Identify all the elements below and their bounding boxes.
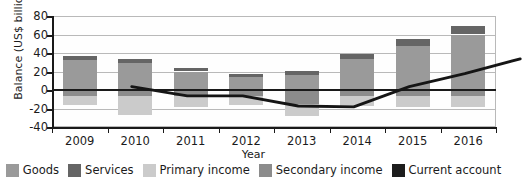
legend-label: Current account bbox=[409, 163, 502, 177]
y-axis-tick-labels: -40-20020406080 bbox=[18, 0, 48, 140]
x-tick-label: 2011 bbox=[176, 134, 205, 148]
legend-label: Goods bbox=[23, 163, 59, 177]
y-tick-label: -40 bbox=[29, 120, 48, 134]
y-axis-line bbox=[52, 16, 54, 128]
x-tick-mark bbox=[52, 128, 53, 133]
legend-label: Primary income bbox=[160, 163, 250, 177]
x-tick-mark bbox=[163, 128, 164, 133]
legend-item[interactable]: Goods bbox=[6, 163, 59, 177]
line-current-account bbox=[132, 59, 521, 107]
y-tick-mark bbox=[47, 109, 52, 111]
x-tick-label: 2015 bbox=[398, 134, 427, 148]
x-axis-title: Year bbox=[0, 148, 507, 161]
x-tick-label: 2009 bbox=[65, 134, 94, 148]
y-tick-mark bbox=[47, 72, 52, 74]
x-tick-label: 2010 bbox=[121, 134, 150, 148]
bar-group[interactable] bbox=[63, 16, 97, 127]
x-tick-mark bbox=[496, 128, 497, 133]
legend-item[interactable]: Primary income bbox=[143, 163, 250, 177]
bar-segment-services[interactable] bbox=[63, 56, 97, 61]
bar-segment-goods[interactable] bbox=[63, 60, 97, 90]
legend-label: Secondary income bbox=[276, 163, 383, 177]
legend-swatch-icon bbox=[143, 164, 156, 177]
x-tick-mark bbox=[385, 128, 386, 133]
y-tick-label: 80 bbox=[33, 9, 48, 23]
x-tick-mark bbox=[274, 128, 275, 133]
x-tick-mark bbox=[219, 128, 220, 133]
legend-swatch-icon bbox=[68, 164, 81, 177]
x-tick-label: 2013 bbox=[287, 134, 316, 148]
x-tick-mark bbox=[330, 128, 331, 133]
legend-swatch-icon bbox=[259, 164, 272, 177]
legend-swatch-icon bbox=[6, 164, 19, 177]
legend-item[interactable]: Current account bbox=[392, 163, 502, 177]
legend-label: Services bbox=[85, 163, 134, 177]
x-tick-mark bbox=[108, 128, 109, 133]
bar-segment-primary-income[interactable] bbox=[63, 96, 97, 104]
legend-swatch-icon bbox=[392, 164, 405, 177]
y-tick-label: 60 bbox=[33, 28, 48, 42]
y-tick-label: -20 bbox=[29, 102, 48, 116]
y-tick-mark bbox=[47, 35, 52, 37]
x-tick-mark bbox=[441, 128, 442, 133]
legend-item[interactable]: Secondary income bbox=[259, 163, 383, 177]
y-tick-mark bbox=[47, 16, 52, 18]
x-tick-label: 2012 bbox=[232, 134, 261, 148]
legend-item[interactable]: Services bbox=[68, 163, 134, 177]
chart-legend: GoodsServicesPrimary incomeSecondary inc… bbox=[0, 163, 507, 177]
y-tick-label: 40 bbox=[33, 46, 48, 60]
plot-area bbox=[52, 16, 496, 127]
x-tick-label: 2014 bbox=[343, 134, 372, 148]
y-tick-label: 20 bbox=[33, 65, 48, 79]
x-tick-label: 2016 bbox=[454, 134, 483, 148]
y-tick-mark bbox=[47, 90, 52, 92]
y-tick-mark bbox=[47, 53, 52, 55]
